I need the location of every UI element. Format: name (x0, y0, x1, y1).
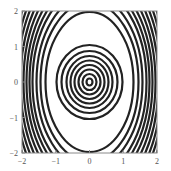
contour-chart: −2−1012 210−1−2 (0, 0, 171, 171)
x-tick-label: 0 (88, 157, 92, 166)
y-tick-label: −2 (9, 149, 18, 158)
x-tick-label: −2 (18, 157, 27, 166)
x-tick-label: −1 (51, 157, 60, 166)
y-tick-label: −1 (9, 114, 18, 123)
y-tick-label: 2 (14, 7, 18, 16)
y-tick-label: 0 (14, 78, 18, 87)
y-tick-label: 1 (14, 43, 18, 52)
x-tick-label: 1 (121, 157, 125, 166)
x-tick-label: 2 (155, 157, 159, 166)
